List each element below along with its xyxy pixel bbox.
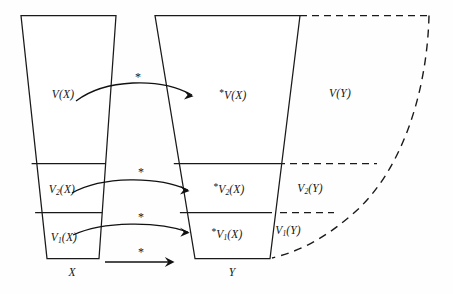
- label-outer-v2: V2(Y): [297, 183, 323, 195]
- right-funnel-shape: [155, 16, 300, 259]
- label-left-v2: V2(X): [49, 184, 75, 196]
- label-right-v2-tail: (X): [229, 183, 244, 195]
- label-outer-v1: V1(Y): [275, 225, 301, 237]
- label-right-v-full-base: V: [224, 89, 231, 101]
- asterisk-label-v-full: *: [135, 71, 141, 83]
- label-right-v2-star: *V2(X): [213, 183, 244, 196]
- label-left-base-set: X: [68, 267, 75, 279]
- label-outer-v1-tail: (Y): [286, 224, 301, 236]
- label-outer-v2-tail: (Y): [308, 182, 323, 194]
- label-outer-v-full: V(Y): [329, 88, 351, 100]
- asterisk-label-base: *: [138, 246, 144, 258]
- label-left-v-full: V(X): [52, 89, 75, 101]
- label-left-v2-tail: (X): [60, 183, 75, 195]
- label-right-v1-star: *V1(X): [211, 228, 242, 241]
- label-right-base-set: Y: [229, 267, 236, 279]
- asterisk-label-v1: *: [138, 211, 144, 223]
- diagram-canvas: * * * * V(X) V2(X) V1(X) X *V(X) *V2(X) …: [0, 0, 453, 294]
- label-right-v-full-star: *V(X): [219, 89, 246, 102]
- diagram-graphics: [0, 0, 453, 294]
- label-right-v1-base: V: [216, 228, 223, 240]
- label-left-v1: V1(X): [51, 232, 77, 244]
- asterisk-label-v2: *: [138, 166, 144, 178]
- left-funnel-shape: [21, 16, 116, 259]
- label-left-v1-tail: (X): [62, 231, 77, 243]
- label-right-v1-tail: (X): [227, 228, 242, 240]
- label-right-v-full-tail: (X): [231, 89, 246, 101]
- label-right-v2-base: V: [218, 183, 225, 195]
- arrow-v1-head: [180, 228, 190, 237]
